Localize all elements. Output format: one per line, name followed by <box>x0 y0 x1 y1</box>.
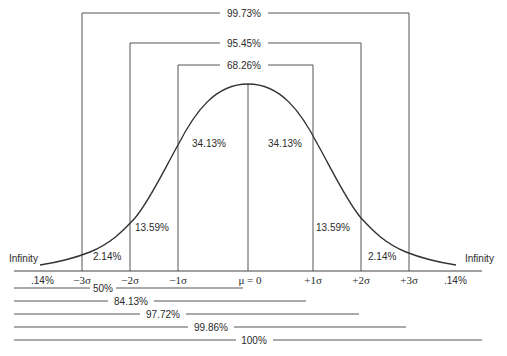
cumulative-label: 84.13% <box>114 296 148 307</box>
cumulative-84-13: 84.13% <box>14 296 306 307</box>
region-label-right-1sigma: 34.13% <box>268 138 302 149</box>
cumulative-label: 99.86% <box>194 322 228 333</box>
tick-plus-2sigma: +2σ <box>352 274 370 286</box>
region-label-left-3sigma: 2.14% <box>93 251 121 262</box>
tick-mean: μ = 0 <box>238 274 262 286</box>
region-label-left-2sigma: 13.59% <box>135 222 169 233</box>
interval-bracket-68-26: 68.26% <box>178 60 313 271</box>
tick-minus-3sigma: −3σ <box>73 274 91 286</box>
cumulative-99-86: 99.86% <box>14 322 406 333</box>
tick-minus-2sigma: −2σ <box>121 274 139 286</box>
cumulative-97-72: 97.72% <box>14 309 359 320</box>
tail-pct-left: .14% <box>31 275 54 286</box>
interval-label-3sigma: 99.73% <box>227 8 261 19</box>
tick-plus-1sigma: +1σ <box>304 274 322 286</box>
interval-bracket-95-45: 95.45% <box>130 38 361 271</box>
cumulative-100: 100% <box>14 335 482 346</box>
region-label-right-3sigma: 2.14% <box>368 251 396 262</box>
cumulative-label: 100% <box>241 335 267 346</box>
normal-distribution-diagram: 99.73% 95.45% 68.26% 34.13% 34.13% 13.59… <box>0 0 507 356</box>
interval-label-1sigma: 68.26% <box>227 60 261 71</box>
left-tail-label: Infinity <box>9 253 38 264</box>
right-tail-label: Infinity <box>465 253 494 264</box>
tick-minus-1sigma: −1σ <box>169 274 187 286</box>
tail-pct-right: .14% <box>444 275 467 286</box>
region-label-left-1sigma: 34.13% <box>192 138 226 149</box>
interval-label-2sigma: 95.45% <box>227 38 261 49</box>
region-label-right-2sigma: 13.59% <box>316 222 350 233</box>
cumulative-label: 97.72% <box>146 309 180 320</box>
cumulative-label: 50% <box>93 283 113 294</box>
tick-plus-3sigma: +3σ <box>400 274 418 286</box>
